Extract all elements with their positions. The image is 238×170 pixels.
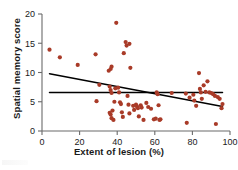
fit-lines: [50, 74, 223, 107]
data-point: [141, 118, 145, 122]
y-tick-label: 20: [25, 9, 35, 19]
data-point: [126, 103, 130, 107]
data-point: [125, 94, 129, 98]
data-point: [184, 91, 188, 95]
data-point: [154, 117, 158, 121]
data-point: [156, 103, 160, 107]
data-point: [47, 48, 51, 52]
data-point: [187, 96, 191, 100]
page-edge-artifact: [2, 160, 28, 165]
data-point: [122, 51, 126, 55]
data-point: [132, 108, 136, 112]
y-tick-label: 5: [30, 97, 35, 107]
data-point: [128, 66, 132, 70]
y-tick-marks: [38, 14, 42, 131]
data-point: [219, 106, 223, 110]
data-point: [112, 100, 116, 104]
x-tick-marks: [42, 131, 230, 135]
plot-canvas: 05101520 020406080100: [0, 0, 238, 170]
data-points: [47, 21, 224, 126]
data-point: [58, 55, 62, 59]
data-point: [111, 118, 115, 122]
data-point: [198, 87, 202, 91]
data-point: [218, 97, 222, 101]
data-point: [205, 79, 209, 83]
data-point: [110, 108, 114, 112]
data-point: [140, 106, 144, 110]
data-point: [120, 110, 124, 114]
data-point: [121, 115, 125, 119]
y-tick-labels: 05101520: [25, 9, 35, 136]
data-point: [197, 71, 201, 75]
data-point: [114, 21, 118, 25]
data-point: [194, 104, 198, 108]
y-axis: 05101520: [25, 9, 42, 136]
data-point: [144, 101, 148, 105]
data-point: [137, 114, 141, 118]
scatter-plot-figure: 05101520 020406080100 Extent of lesion (…: [0, 0, 238, 170]
data-point: [192, 98, 196, 102]
data-point: [203, 90, 207, 94]
data-point: [156, 92, 160, 96]
data-point: [76, 63, 80, 67]
data-point: [109, 65, 113, 69]
x-axis: 020406080100: [39, 131, 237, 147]
data-point: [185, 121, 189, 125]
y-tick-label: 15: [25, 39, 35, 49]
data-point: [214, 122, 218, 126]
data-point: [117, 90, 121, 94]
data-point: [124, 40, 128, 44]
data-point: [127, 111, 131, 115]
data-point: [109, 113, 113, 117]
data-point: [109, 91, 113, 95]
data-point: [94, 99, 98, 103]
data-point: [220, 102, 224, 106]
data-point: [149, 107, 153, 111]
data-point: [93, 52, 97, 56]
regression-line: [50, 74, 223, 107]
data-point: [199, 90, 203, 94]
data-point: [200, 97, 204, 101]
data-point: [170, 91, 174, 95]
data-point: [191, 93, 195, 97]
y-axis-title: Spatial memory score: [11, 9, 22, 129]
data-point: [202, 83, 206, 87]
data-point: [158, 117, 162, 121]
y-tick-label: 0: [30, 126, 35, 136]
data-point: [108, 84, 112, 88]
data-point: [116, 86, 120, 90]
x-axis-title: Extent of lesion (%): [0, 146, 238, 157]
data-point: [127, 42, 131, 46]
data-point: [97, 83, 101, 87]
data-point: [119, 102, 123, 106]
y-tick-label: 10: [25, 68, 35, 78]
